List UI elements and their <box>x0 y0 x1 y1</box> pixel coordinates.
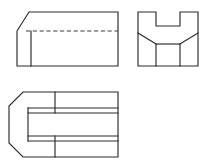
front-view-face <box>17 12 118 66</box>
drawing-sheet <box>0 0 206 165</box>
front-view <box>17 12 118 66</box>
top-view <box>9 92 118 157</box>
multiview-drawing-canvas <box>0 0 206 165</box>
top-view-face <box>9 92 118 157</box>
